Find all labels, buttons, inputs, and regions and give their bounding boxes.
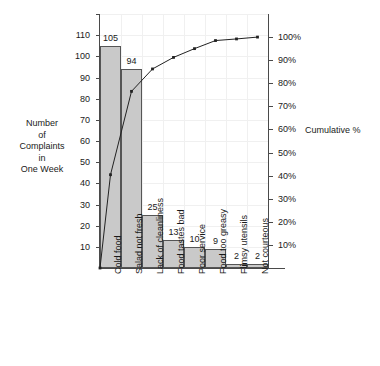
y-axis-right-tick-label: 10% — [278, 241, 296, 250]
y-axis-right-tick-label: 50% — [278, 149, 296, 158]
x-axis-category-label: Cold food — [114, 235, 123, 274]
cumulative-line-marker — [172, 56, 175, 59]
y-axis-right-title: Cumulative % — [305, 126, 361, 135]
y-axis-right-tick — [268, 83, 273, 84]
x-axis-category-label: Flimsy utensils — [240, 215, 249, 274]
y-axis-right-tick-label: 60% — [278, 125, 296, 134]
y-axis-right-tick-label: 90% — [278, 56, 296, 65]
cumulative-line-marker — [256, 36, 259, 39]
y-axis-right-tick-label: 70% — [278, 102, 296, 111]
y-axis-right-tick — [268, 106, 273, 107]
y-axis-left-tick-label: 20 — [68, 222, 90, 231]
y-axis-right-tick-label: 30% — [278, 195, 296, 204]
x-axis-category-label: Lack of cleanliness — [156, 198, 165, 274]
y-axis-left-tick-label: 60 — [68, 137, 90, 146]
y-axis-left-tick-label: 110 — [68, 31, 90, 40]
x-axis-category-label: Food tastes bad — [177, 209, 186, 274]
cumulative-line-marker — [151, 68, 154, 71]
cumulative-line-marker — [214, 39, 217, 42]
pareto-chart: Number of Complaints in One Week Cumulat… — [0, 0, 380, 366]
x-axis-line — [99, 268, 285, 269]
y-axis-left-tick-label: 10 — [68, 243, 90, 252]
y-axis-left-tick-label: 30 — [68, 201, 90, 210]
y-axis-right-tick — [268, 176, 273, 177]
y-axis-right-tick — [268, 199, 273, 200]
y-axis-left-tick-label: 40 — [68, 179, 90, 188]
y-axis-right-tick — [268, 153, 273, 154]
x-axis-category-label: Not courteous — [261, 218, 270, 274]
x-axis-category-label: Food too greasy — [219, 209, 228, 274]
y-axis-right-tick — [268, 60, 273, 61]
y-axis-left-tick-label: 70 — [68, 116, 90, 125]
y-axis-left-tick-label: 100 — [68, 52, 90, 61]
y-axis-right-tick — [268, 37, 273, 38]
y-axis-left-tick-label: 50 — [68, 158, 90, 167]
y-axis-left-tick-label: 80 — [68, 95, 90, 104]
y-axis-left-tick-label: 90 — [68, 74, 90, 83]
y-axis-right-tick-label: 40% — [278, 172, 296, 181]
cumulative-line-marker — [193, 47, 196, 50]
bar-value-label: 105 — [100, 34, 121, 43]
cumulative-line-marker — [109, 173, 112, 176]
y-axis-right-tick — [268, 129, 273, 130]
cumulative-line-marker — [99, 267, 102, 270]
cumulative-line-marker — [130, 90, 133, 93]
cumulative-line-marker — [235, 38, 238, 41]
y-axis-right-tick-label: 80% — [278, 79, 296, 88]
x-axis-category-label: Salad not fresh — [135, 213, 144, 274]
x-axis-category-label: Poor service — [198, 224, 207, 274]
y-axis-right-tick-label: 20% — [278, 218, 296, 227]
y-axis-right-tick-label: 100% — [278, 33, 301, 42]
bar-value-label: 94 — [121, 57, 142, 66]
